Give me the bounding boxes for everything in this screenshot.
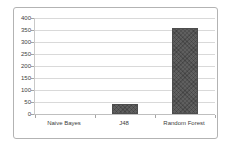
gridline-400 <box>35 18 215 19</box>
bar-chart-figure: 050100150200250300350400 Naive BayesJ48R… <box>0 0 228 145</box>
x-tick-label: Naive Bayes <box>34 119 94 127</box>
y-tick-label: 50 <box>15 99 31 106</box>
y-tick-label: 150 <box>15 75 31 82</box>
x-axis-tick <box>215 115 216 118</box>
y-axis-tick <box>31 66 34 67</box>
y-tick-label: 350 <box>15 27 31 34</box>
y-axis-tick <box>31 42 34 43</box>
y-axis-tick <box>31 54 34 55</box>
y-axis-tick <box>31 30 34 31</box>
y-axis-tick <box>31 102 34 103</box>
bar-random-forest <box>172 28 198 114</box>
bar-j48 <box>112 104 138 114</box>
x-axis-tick <box>95 115 96 118</box>
y-tick-label: 400 <box>15 15 31 22</box>
y-axis-tick <box>31 90 34 91</box>
y-tick-label: 250 <box>15 51 31 58</box>
chart-frame: 050100150200250300350400 Naive BayesJ48R… <box>13 7 218 139</box>
x-tick-label: J48 <box>94 119 154 127</box>
y-axis-tick <box>31 78 34 79</box>
y-tick-label: 0 <box>15 111 31 118</box>
y-axis-tick <box>31 114 34 115</box>
x-tick-label: Random Forest <box>154 119 214 127</box>
y-tick-label: 100 <box>15 87 31 94</box>
x-axis-tick <box>35 115 36 118</box>
x-axis-tick <box>155 115 156 118</box>
y-axis-tick <box>31 18 34 19</box>
y-tick-label: 300 <box>15 39 31 46</box>
plot-area <box>34 18 215 115</box>
y-tick-label: 200 <box>15 63 31 70</box>
